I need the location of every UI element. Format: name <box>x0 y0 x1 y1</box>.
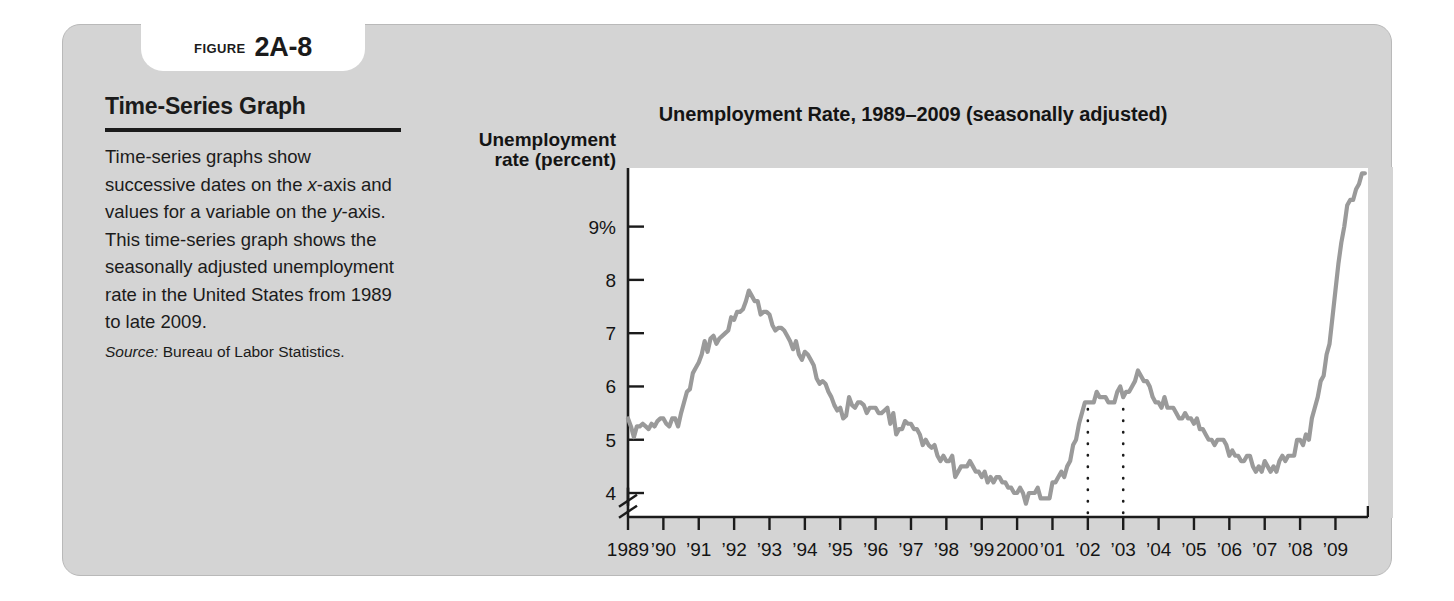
x-tick-label-2000: 2000 <box>996 539 1038 560</box>
y-axis-title-line2: rate (percent) <box>495 149 616 170</box>
description-fragment-3: y <box>332 201 341 222</box>
x-tick-label-99: ’99 <box>969 539 994 560</box>
description-fragment-0: Time-series graphs show successive dates… <box>105 146 311 195</box>
x-tick-label-92: ’92 <box>721 539 746 560</box>
source-text: Bureau of Labor Statistics. <box>163 343 345 360</box>
x-tick-label-03: ’03 <box>1111 539 1136 560</box>
figure-label: FIGURE <box>194 37 246 58</box>
figure-description-text: Time-series graphs show successive dates… <box>105 143 405 336</box>
y-tick-label-5: 5 <box>605 430 616 451</box>
x-tick-label-97: ’97 <box>898 539 923 560</box>
title-divider <box>105 128 401 132</box>
figure-source: Source: Bureau of Labor Statistics. <box>105 341 405 362</box>
description-fragment-1: x <box>308 174 317 195</box>
x-tick-label-94: ’94 <box>792 539 818 560</box>
time-series-chart: 9%87654Unemploymentrate (percent)1989’90… <box>413 125 1393 565</box>
x-tick-label-06: ’06 <box>1217 539 1242 560</box>
x-tick-label-05: ’05 <box>1181 539 1206 560</box>
x-tick-label-04: ’04 <box>1146 539 1172 560</box>
x-tick-label-01: ’01 <box>1040 539 1065 560</box>
y-tick-label-8: 8 <box>605 270 616 291</box>
x-tick-label-96: ’96 <box>863 539 888 560</box>
x-tick-label-09: ’09 <box>1323 539 1348 560</box>
x-tick-label-1989: 1989 <box>607 539 649 560</box>
x-tick-label-93: ’93 <box>757 539 782 560</box>
x-tick-label-95: ’95 <box>828 539 853 560</box>
x-tick-label-91: ’91 <box>686 539 711 560</box>
chart-title: Unemployment Rate, 1989–2009 (seasonally… <box>453 103 1373 126</box>
figure-card: FIGURE 2A-8 Time-Series Graph Time-serie… <box>62 24 1392 576</box>
chart-area: 9%87654Unemploymentrate (percent)1989’90… <box>413 125 1393 565</box>
source-label: Source: <box>105 343 158 360</box>
x-tick-label-98: ’98 <box>934 539 959 560</box>
plot-right-mask <box>1369 167 1393 518</box>
y-axis-title: Unemployment <box>479 129 617 150</box>
x-tick-label-08: ’08 <box>1287 539 1312 560</box>
figure-number: 2A-8 <box>255 32 312 63</box>
figure-title: Time-Series Graph <box>105 93 405 120</box>
x-tick-label-90: ’90 <box>651 539 676 560</box>
y-tick-label-9pct: 9% <box>589 217 617 238</box>
y-tick-label-7: 7 <box>605 323 616 344</box>
figure-description-panel: Time-Series Graph Time-series graphs sho… <box>105 93 405 362</box>
x-tick-label-02: ’02 <box>1075 539 1100 560</box>
y-tick-label-6: 6 <box>605 376 616 397</box>
figure-number-tab: FIGURE 2A-8 <box>141 24 365 71</box>
x-tick-label-07: ’07 <box>1252 539 1277 560</box>
y-tick-label-4: 4 <box>605 483 616 504</box>
plot-background <box>628 168 1368 517</box>
